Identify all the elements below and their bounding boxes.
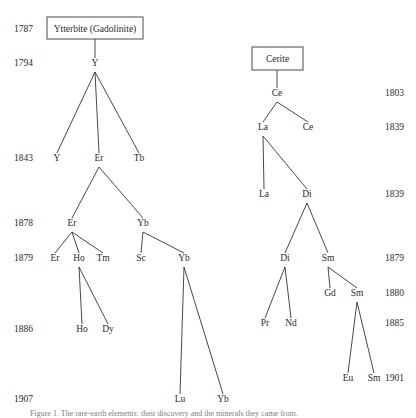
element-node-y: Y bbox=[92, 58, 99, 68]
year-label-left: 1878 bbox=[14, 218, 33, 228]
year-label-right: 1839 bbox=[385, 122, 404, 132]
element-node-tb: Tb bbox=[134, 153, 145, 163]
tree-edge bbox=[265, 267, 285, 318]
year-labels-layer: 1787179418431878187918861907180318391839… bbox=[14, 24, 404, 404]
tree-edge bbox=[143, 232, 184, 253]
tree-edge bbox=[55, 232, 72, 253]
year-label-right: 1839 bbox=[385, 189, 404, 199]
year-label-right: 1901 bbox=[385, 373, 404, 383]
source-mineral-box: Ytterbite (Gadolinite) bbox=[47, 17, 143, 39]
source-box-label: Cerite bbox=[266, 54, 289, 64]
year-label-right: 1879 bbox=[385, 253, 404, 263]
element-node-er: Er bbox=[68, 218, 78, 228]
year-label-left: 1787 bbox=[14, 24, 33, 34]
element-node-sc: Sc bbox=[136, 253, 146, 263]
element-node-dy: Dy bbox=[102, 324, 114, 334]
tree-edge bbox=[72, 232, 79, 253]
element-node-di: Di bbox=[302, 189, 312, 199]
element-node-ce: Ce bbox=[303, 122, 314, 132]
tree-edge bbox=[307, 203, 328, 253]
year-label-left: 1886 bbox=[14, 324, 33, 334]
element-node-lu: Lu bbox=[175, 394, 186, 404]
tree-edge bbox=[348, 302, 357, 373]
tree-edge bbox=[79, 267, 108, 324]
element-node-la: La bbox=[258, 122, 269, 132]
tree-edge bbox=[328, 267, 357, 288]
element-node-sm: Sm bbox=[351, 288, 364, 298]
year-label-left: 1794 bbox=[14, 58, 33, 68]
element-node-y: Y bbox=[54, 153, 61, 163]
element-node-er: Er bbox=[95, 153, 105, 163]
year-label-right: 1880 bbox=[385, 288, 404, 298]
tree-edge bbox=[79, 267, 82, 324]
element-node-pr: Pr bbox=[261, 318, 270, 328]
element-nodes-layer: YYErTbErYbErHoTmScYbHoDyLuYbCeLaCeLaDiDi… bbox=[51, 58, 381, 404]
element-node-ho: Ho bbox=[73, 253, 85, 263]
element-node-yb: Yb bbox=[178, 253, 190, 263]
tree-edge bbox=[263, 136, 264, 189]
tree-edge bbox=[357, 302, 374, 373]
source-mineral-box: Cerite bbox=[252, 47, 303, 70]
tree-edge bbox=[57, 72, 95, 153]
tree-edge bbox=[184, 267, 223, 394]
element-node-di: Di bbox=[280, 253, 290, 263]
year-label-left: 1907 bbox=[14, 394, 33, 404]
element-node-ho: Ho bbox=[76, 324, 88, 334]
element-node-la: La bbox=[259, 189, 270, 199]
figure-caption: Figure 1. The rare-earth elements: their… bbox=[30, 409, 410, 418]
tree-edge bbox=[72, 232, 103, 253]
element-node-yb: Yb bbox=[217, 394, 229, 404]
year-label-right: 1803 bbox=[385, 88, 404, 98]
tree-edge bbox=[328, 267, 330, 288]
element-node-ce: Ce bbox=[272, 88, 283, 98]
tree-edge bbox=[263, 102, 277, 122]
element-node-yb: Yb bbox=[137, 218, 149, 228]
tree-edge bbox=[99, 167, 143, 218]
element-node-tm: Tm bbox=[96, 253, 110, 263]
element-node-sm: Sm bbox=[368, 373, 381, 383]
tree-edge bbox=[95, 72, 139, 153]
edges-layer bbox=[55, 39, 374, 394]
element-node-sm: Sm bbox=[322, 253, 335, 263]
tree-edge bbox=[95, 72, 99, 153]
element-node-gd: Gd bbox=[324, 288, 336, 298]
element-node-eu: Eu bbox=[343, 373, 354, 383]
element-node-nd: Nd bbox=[285, 318, 297, 328]
year-label-left: 1843 bbox=[14, 153, 33, 163]
tree-edge bbox=[285, 203, 307, 253]
tree-edge bbox=[72, 167, 99, 218]
tree-edge bbox=[180, 267, 184, 394]
source-box-label: Ytterbite (Gadolinite) bbox=[54, 24, 137, 35]
element-node-er: Er bbox=[51, 253, 61, 263]
year-label-left: 1879 bbox=[14, 253, 33, 263]
tree-edge bbox=[277, 102, 308, 122]
tree-edge bbox=[285, 267, 291, 318]
tree-edge bbox=[141, 232, 143, 253]
year-label-right: 1885 bbox=[385, 318, 404, 328]
source-boxes-layer: Ytterbite (Gadolinite)Cerite bbox=[47, 17, 303, 70]
tree-edge bbox=[263, 136, 307, 189]
